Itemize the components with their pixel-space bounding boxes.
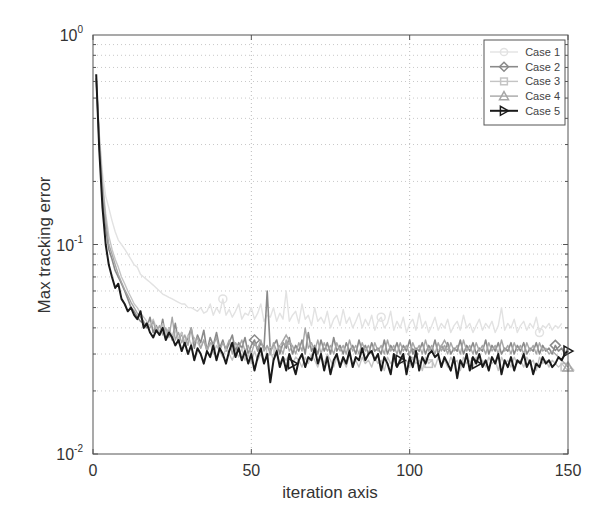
legend-label: Case 4 (525, 90, 560, 102)
legend-label: Case 3 (525, 75, 560, 87)
x-tick-label: 0 (89, 462, 98, 479)
x-tick-labels: 050100150 (89, 462, 582, 479)
y-tick-label: 10-2 (56, 443, 83, 463)
legend-label: Case 2 (525, 61, 560, 73)
y-tick-label: 10-1 (56, 234, 83, 254)
legend-entry: Case 5 (490, 105, 560, 117)
legend: Case 1Case 2Case 3Case 4Case 5 (484, 40, 565, 125)
chart: 050100150 10-210-1100 iteration axis Max… (0, 0, 612, 521)
x-tick-label: 150 (555, 462, 582, 479)
y-tick-label: 100 (60, 24, 84, 44)
legend-label: Case 1 (525, 46, 560, 58)
y-tick-labels: 10-210-1100 (56, 24, 83, 463)
x-tick-label: 100 (396, 462, 423, 479)
y-axis-label: Max tracking error (35, 176, 54, 313)
x-axis-label: iteration axis (282, 483, 377, 502)
x-tick-label: 50 (242, 462, 260, 479)
legend-label: Case 5 (525, 105, 560, 117)
